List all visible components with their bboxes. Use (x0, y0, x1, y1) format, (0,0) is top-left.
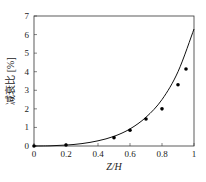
x-tick-label: 0 (32, 149, 37, 159)
y-tick-label: 5 (25, 48, 30, 58)
data-point (160, 107, 164, 111)
data-point (64, 143, 68, 147)
fit-curve (34, 29, 194, 146)
y-tick-label: 3 (25, 85, 30, 95)
y-tick-label: 4 (25, 67, 30, 77)
y-tick-label: 1 (25, 122, 30, 132)
data-point (144, 117, 148, 121)
y-axis-label: 减衰比 [%] (4, 57, 16, 105)
y-tick-label: 7 (25, 11, 30, 21)
y-tick-label: 2 (25, 104, 30, 114)
data-points (32, 67, 188, 148)
x-tick-label: 0.4 (92, 149, 104, 159)
chart: 01234567 00.20.40.60.81 Z/H 减衰比 [%] (0, 0, 206, 182)
data-point (184, 67, 188, 71)
x-tick-label: 0.2 (60, 149, 71, 159)
data-point (176, 83, 180, 87)
x-tick-label: 0.8 (156, 149, 168, 159)
data-point (32, 144, 36, 148)
x-tick-label: 0.6 (124, 149, 136, 159)
data-point (128, 128, 132, 132)
data-point (112, 136, 116, 140)
x-tick-label: 1 (192, 149, 197, 159)
y-tick-label: 0 (25, 141, 30, 151)
y-tick-label: 6 (25, 30, 30, 40)
y-axis: 01234567 (25, 11, 38, 151)
x-axis-label: Z/H (106, 161, 122, 172)
plot-frame (34, 16, 194, 146)
